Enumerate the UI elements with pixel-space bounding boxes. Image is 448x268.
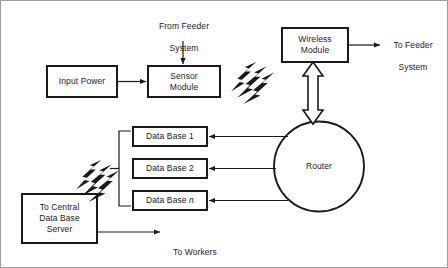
data-base-2-label: Data Base 2 (133, 159, 207, 178)
central-db-server-text-line1: To Central (40, 202, 80, 213)
from-feeder-system-label: From Feeder System (140, 10, 228, 65)
input-power-label: Input Power (47, 66, 117, 97)
to-feeder-system-label: To Feeder System (382, 29, 444, 84)
to-feeder-text-line1: To Feeder (382, 40, 444, 51)
data-base-1-label: Data Base 1 (133, 127, 207, 146)
input-power-text: Input Power (59, 76, 105, 87)
from-feeder-text-line2: System (140, 43, 228, 54)
central-db-server-text-line3: Server (47, 224, 73, 235)
sensor-module-text-line1: Sensor (170, 71, 198, 82)
to-workers-text: To Workers (160, 247, 230, 258)
wireless-module-text-line1: Wireless (298, 34, 331, 45)
central-db-server-text-line2: Data Base (39, 213, 80, 224)
data-base-1-text: Data Base 1 (146, 131, 194, 142)
data-base-n-prefix: Data Base (146, 195, 189, 205)
data-base-n-label: Data Base n (133, 191, 207, 210)
router-label: Router (274, 152, 364, 181)
data-base-2-text: Data Base 2 (146, 163, 194, 174)
sensor-module-text-line2: Module (170, 82, 198, 93)
router-text: Router (306, 161, 332, 172)
wireless-module-label: Wireless Module (282, 28, 348, 62)
wireless-module-text-line2: Module (301, 45, 329, 56)
diagram-canvas: Input Power Sensor Module Wireless Modul… (0, 0, 448, 268)
to-workers-label: To Workers (160, 236, 230, 268)
central-db-server-label: To Central Data Base Server (22, 194, 97, 243)
from-feeder-text-line1: From Feeder (140, 21, 228, 32)
to-feeder-text-line2: System (382, 62, 444, 73)
data-base-n-index: n (189, 195, 194, 205)
sensor-module-label: Sensor Module (148, 66, 220, 97)
data-base-n-text: Data Base n (146, 195, 194, 206)
